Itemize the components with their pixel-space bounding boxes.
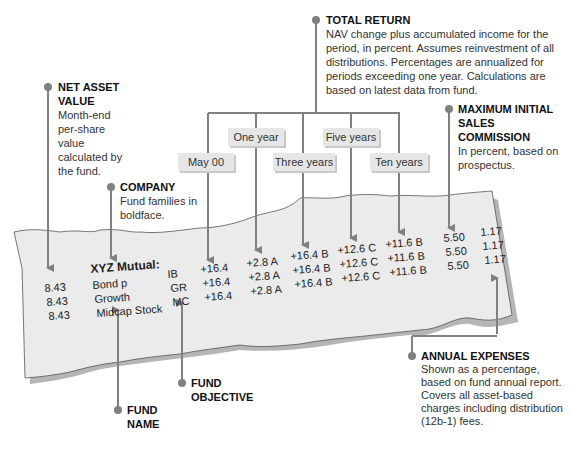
max-sales-commission: 5.50 [447,259,469,272]
nav-value: 8.43 [44,281,66,294]
callout-total-return: TOTAL RETURN NAV change plus accumulated… [326,13,574,97]
header-may00: May 00 [178,153,234,171]
header-ten-years: Ten years [370,153,428,171]
return-may00: +16.4 [200,261,229,275]
header-one-year: One year [228,128,284,146]
callout-title: MAXIMUM INITIAL SALES COMMISSION [458,102,568,144]
callout-title: NET ASSET VALUE [58,80,130,108]
callout-company: COMPANY Fund families in boldface. [120,180,200,222]
header-five-years: Five years [323,128,379,146]
callout-max-sales-commission: MAXIMUM INITIAL SALES COMMISSION In perc… [458,102,568,172]
fund-name: Bond p [92,277,128,291]
callout-title: TOTAL RETURN [326,13,574,27]
callout-title: FUND NAME [127,403,177,431]
callout-annual-expenses: ANNUAL EXPENSES Shown as a percentage, b… [421,350,571,428]
callout-body: Fund families in boldface. [120,194,200,222]
return-may00: +16.4 [202,275,231,289]
callout-body: Shown as a percentage, based on fund ann… [421,363,571,428]
max-sales-commission: 5.50 [443,231,465,244]
max-sales-commission: 5.50 [445,245,467,258]
callout-fund-name: FUND NAME [127,403,177,431]
nav-value: 8.43 [48,309,70,322]
callout-net-asset-value: NET ASSET VALUE Month-end per-share valu… [58,80,130,178]
return-may00: +16.4 [204,289,233,303]
callout-body: NAV change plus accumulated income for t… [326,27,574,97]
fund-objective: GR [170,281,187,294]
annual-expenses: 1.17 [482,239,504,252]
return-one-year: +2.8 A [248,269,280,283]
return-one-year: +2.8 A [246,255,278,269]
fund-name: Growth [94,291,130,305]
fund-objective: IB [167,267,178,280]
callout-body: In percent, based on prospectus. [458,144,568,172]
callout-title: COMPANY [120,180,200,194]
annual-expenses: 1.17 [480,225,502,238]
callout-title: ANNUAL EXPENSES [421,350,571,363]
return-one-year: +2.8 A [250,283,282,297]
fund-objective: MC [172,295,190,308]
callout-title: FUND OBJECTIVE [191,376,271,404]
callout-fund-objective: FUND OBJECTIVE [191,376,271,404]
nav-value: 8.43 [46,295,68,308]
annual-expenses: 1.17 [484,253,506,266]
header-three-years: Three years [273,153,335,171]
callout-body: Month-end per-share value calculated by … [58,108,130,178]
